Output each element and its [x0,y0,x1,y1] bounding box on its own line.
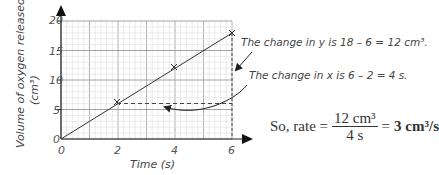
rate-numerator: 12 cm³ [332,110,378,127]
y-tick-15: 15 [49,45,63,58]
x-axis-arrow-icon [242,134,253,144]
y-tick-10: 10 [49,74,63,87]
x-axis-label: Time (s) [130,158,175,171]
y-tick-20: 20 [49,14,63,27]
x-tick-6: 6 [228,144,235,157]
change-y-arrow-icon [236,52,252,70]
x-tick-2: 2 [114,144,121,157]
rate-fraction: 12 cm³ 4 s [332,110,378,143]
rate-equals: = [382,118,390,135]
rate-equation: So, rate = 12 cm³ 4 s = 3 cm³/s [270,110,439,143]
y-axis-label: Volume of oxygen released [14,0,27,148]
grid [57,21,232,139]
annotation-change-y: The change in y is 18 – 6 = 12 cm³. [241,36,428,48]
rate-prefix: So, rate = [270,118,328,135]
y-tick-5: 5 [53,104,60,117]
rate-result: 3 cm³/s [394,118,439,135]
y-axis-unit: (cm³) [28,75,41,105]
x-tick-4: 4 [171,144,178,157]
rate-denominator: 4 s [346,127,363,143]
x-tick-0: 0 [58,144,65,157]
annotation-change-x: The change in x is 6 – 2 = 4 s. [249,69,408,81]
data-point-markers [114,30,235,105]
